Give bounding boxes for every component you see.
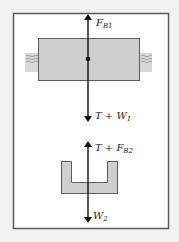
water-right: [140, 53, 152, 72]
water-left: [25, 53, 38, 72]
center-point: [86, 57, 91, 62]
free-body-diagram: FB1 T + W1 T + FB2 W2: [0, 0, 179, 242]
